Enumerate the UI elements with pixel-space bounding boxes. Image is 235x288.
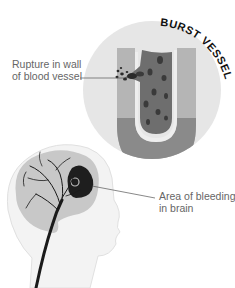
burst-vessel-illustration: BURST VESSEL [0,0,235,288]
rupture-label-line2: of blood vessel [12,70,82,82]
bleeding-label: Area of bleeding in brain [159,190,235,214]
head-illustration [7,145,120,288]
bleeding-label-line1: Area of bleeding [159,190,235,202]
rupture-label: Rupture in wall of blood vessel [12,58,82,82]
bleeding-label-line2: in brain [159,202,235,214]
rupture-label-line1: Rupture in wall [12,58,82,70]
